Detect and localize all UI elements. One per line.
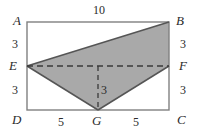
measure-top-length: 10: [93, 4, 105, 16]
measure-right-upper-length: 3: [180, 38, 186, 50]
vertex-label-b: B: [176, 14, 184, 27]
vertex-label-g: G: [92, 114, 101, 127]
vertex-label-e: E: [9, 59, 17, 72]
measure-left-lower-length: 3: [12, 84, 18, 96]
measure-altitude-length: 3: [101, 84, 107, 96]
measure-left-upper-length: 3: [12, 38, 18, 50]
measure-bottom-right-length: 5: [133, 116, 139, 128]
vertex-label-c: C: [177, 113, 186, 126]
measure-right-lower-length: 3: [180, 84, 186, 96]
vertex-label-a: A: [13, 14, 21, 27]
vertex-label-d: D: [12, 113, 21, 126]
vertex-label-f: F: [179, 59, 187, 72]
measure-bottom-left-length: 5: [58, 116, 64, 128]
geometry-figure: A B C D E F G 10 3 3 3 3 5 5 3: [0, 0, 197, 135]
